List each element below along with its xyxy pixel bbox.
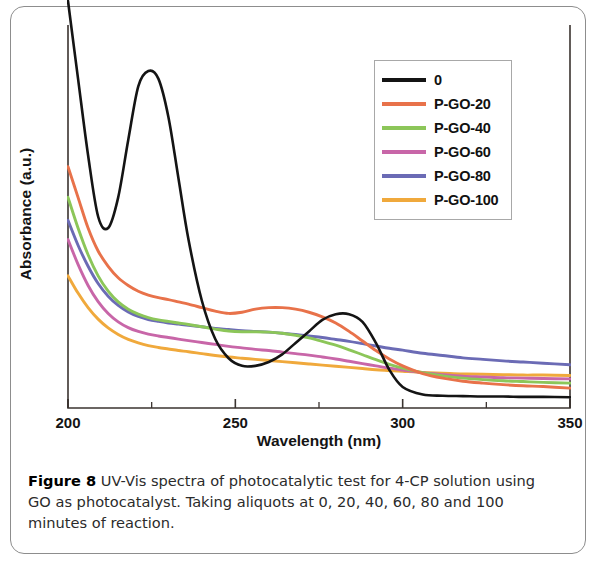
- legend-label: P-GO-80: [434, 168, 491, 184]
- legend-item-p-go-40: P-GO-40: [375, 116, 511, 140]
- legend-label: P-GO-60: [434, 144, 491, 160]
- chart-plot-region: Absorbance (a.u.) Wavelength (nm) 200 25…: [0, 0, 598, 455]
- y-axis-title: Absorbance (a.u.): [17, 84, 35, 344]
- x-tick-label-350: 350: [540, 414, 598, 431]
- legend-swatch-line-icon: [382, 174, 426, 178]
- x-tick-label-200: 200: [38, 414, 98, 431]
- legend-swatch-line-icon: [382, 198, 426, 202]
- legend-label: P-GO-40: [434, 120, 491, 136]
- legend-item-p-go-20: P-GO-20: [375, 92, 511, 116]
- figure-caption-text: UV-Vis spectra of photocatalytic test fo…: [28, 472, 535, 531]
- legend-swatch-line-icon: [382, 126, 426, 130]
- figure-caption: Figure 8 UV-Vis spectra of photocatalyti…: [28, 470, 556, 533]
- chart-legend: 0 P-GO-20 P-GO-40 P-GO-60 P-GO-80 P-GO-1…: [374, 60, 512, 220]
- x-tick-label-300: 300: [373, 414, 433, 431]
- figure-caption-label: Figure 8: [28, 472, 96, 489]
- legend-label: P-GO-20: [434, 96, 491, 112]
- legend-item-p-go-100: P-GO-100: [375, 188, 511, 212]
- legend-item-p-go-80: P-GO-80: [375, 164, 511, 188]
- x-tick-label-250: 250: [205, 414, 265, 431]
- legend-item-0: 0: [375, 68, 511, 92]
- legend-swatch-line-icon: [382, 102, 426, 106]
- legend-label: P-GO-100: [434, 192, 498, 208]
- legend-swatch-line-icon: [382, 150, 426, 154]
- legend-swatch-line-icon: [382, 78, 426, 82]
- legend-item-p-go-60: P-GO-60: [375, 140, 511, 164]
- legend-label: 0: [434, 72, 442, 88]
- x-axis-title: Wavelength (nm): [68, 432, 570, 450]
